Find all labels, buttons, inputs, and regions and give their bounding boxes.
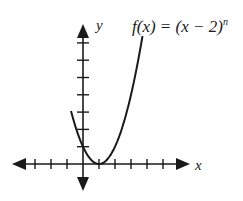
function-graph: y x f(x) = (x − 2)n	[0, 0, 243, 201]
y-axis-top-arrow	[77, 24, 89, 38]
chart-title-base: f(x) = (x − 2)	[132, 17, 223, 36]
chart-title: f(x) = (x − 2)n	[132, 16, 228, 36]
ticks	[35, 43, 163, 169]
y-axis-label: y	[94, 17, 103, 33]
function-curve	[71, 36, 143, 164]
x-axis-left-arrow	[12, 158, 26, 170]
x-axis-label: x	[194, 157, 202, 173]
chart-title-exponent: n	[223, 16, 228, 27]
x-axis-right-arrow	[176, 158, 190, 170]
y-axis-bottom-arrow	[77, 177, 89, 191]
